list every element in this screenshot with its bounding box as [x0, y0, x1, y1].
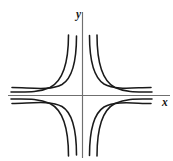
graph-canvas: y x	[0, 0, 173, 161]
curve-quadrant-III-inner	[12, 103, 77, 155]
y-axis-label: y	[74, 8, 82, 21]
curve-quadrant-III-outer	[11, 99, 69, 156]
x-axis-label: x	[161, 96, 168, 108]
hyperbola-figure: y x	[0, 0, 173, 161]
curve-quadrant-II-outer	[11, 35, 69, 92]
curve-quadrant-I-outer	[97, 35, 152, 92]
curve-quadrant-IV-outer	[97, 99, 152, 156]
curve-quadrant-II-inner	[12, 36, 77, 88]
